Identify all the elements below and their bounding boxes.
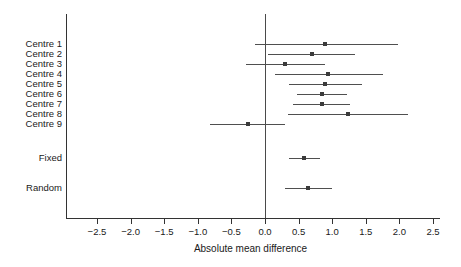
x-tick bbox=[231, 219, 232, 224]
x-tick bbox=[131, 219, 132, 224]
row-label-column: Centre 1Centre 2Centre 3Centre 4Centre 5… bbox=[0, 0, 62, 267]
x-tick bbox=[97, 219, 98, 224]
row-label-fixed: Fixed bbox=[39, 152, 62, 163]
point-estimate-marker bbox=[320, 92, 324, 96]
point-estimate-marker bbox=[302, 156, 306, 160]
x-tick bbox=[399, 219, 400, 224]
forest-plot: Centre 1Centre 2Centre 3Centre 4Centre 5… bbox=[0, 0, 461, 267]
point-estimate-marker bbox=[306, 186, 310, 190]
x-tick-label: 2.5 bbox=[413, 226, 453, 237]
point-estimate-marker bbox=[310, 52, 314, 56]
x-tick bbox=[366, 219, 367, 224]
point-estimate-marker bbox=[326, 72, 330, 76]
x-tick bbox=[198, 219, 199, 224]
x-axis-line bbox=[66, 218, 440, 219]
point-estimate-marker bbox=[323, 42, 327, 46]
point-estimate-marker bbox=[346, 112, 350, 116]
x-tick bbox=[299, 219, 300, 224]
x-tick bbox=[164, 219, 165, 224]
point-estimate-marker bbox=[246, 122, 250, 126]
row-label-random: Random bbox=[26, 182, 62, 193]
x-axis-title: Absolute mean difference bbox=[0, 243, 461, 254]
point-estimate-marker bbox=[320, 102, 324, 106]
x-tick bbox=[332, 219, 333, 224]
x-axis-title-text: Absolute mean difference bbox=[194, 243, 307, 254]
point-estimate-marker bbox=[283, 62, 287, 66]
x-tick bbox=[265, 219, 266, 224]
x-tick bbox=[433, 219, 434, 224]
y-axis-line bbox=[66, 14, 67, 219]
row-label-centre-9: Centre 9 bbox=[26, 118, 62, 129]
point-estimate-marker bbox=[323, 82, 327, 86]
